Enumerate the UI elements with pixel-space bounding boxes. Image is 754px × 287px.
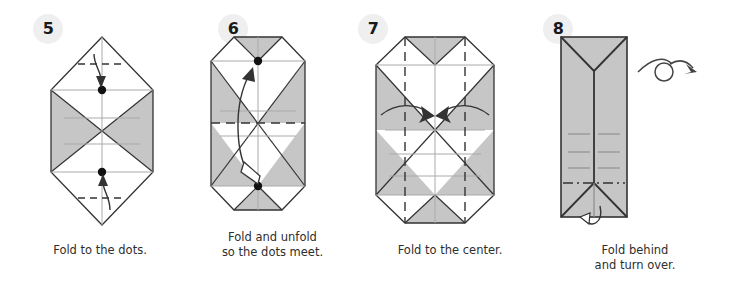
origami-diagram-step-8 xyxy=(560,36,700,226)
soft-crease-lines xyxy=(376,37,494,223)
step-caption-7: Fold to the center. xyxy=(355,243,545,258)
target-dot-lower xyxy=(98,168,106,176)
origami-diagram-step-7 xyxy=(375,36,495,224)
step-caption-5: Fold to the dots. xyxy=(0,243,200,258)
origami-diagram-step-6 xyxy=(210,36,306,211)
target-dot-upper xyxy=(98,86,106,94)
turn-over-symbol xyxy=(638,59,697,81)
target-dot-top xyxy=(254,57,262,65)
origami-diagram-step-5 xyxy=(50,36,154,226)
paper-shape-rectangle xyxy=(561,37,627,217)
step-caption-6: Fold and unfold so the dots meet. xyxy=(185,230,360,260)
step-caption-8: Fold behind and turn over. xyxy=(540,243,730,273)
origami-instruction-sheet: 5 xyxy=(0,0,754,287)
